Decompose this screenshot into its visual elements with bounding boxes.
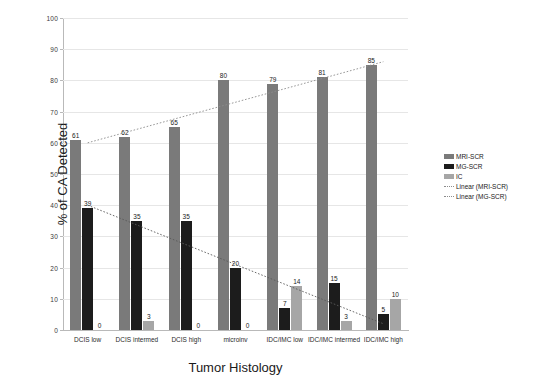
bar-value-label: 61: [72, 132, 79, 139]
bar-value-label: 79: [269, 76, 276, 83]
bar-value-label: 10: [392, 291, 399, 298]
bar-mg-scr[interactable]: 35: [181, 221, 192, 330]
bar-value-label: 5: [382, 306, 386, 313]
legend-item[interactable]: IC: [444, 172, 534, 181]
legend-label: Linear (MRI-SCR): [456, 183, 508, 190]
x-axis-tick-label: IDC/IMC intermed: [308, 336, 360, 343]
legend-dotted-line-icon: [444, 186, 454, 187]
y-axis-tick-label: 20: [50, 264, 58, 271]
legend-item[interactable]: Linear (MG-SCR): [444, 192, 534, 201]
bar-value-label: 81: [318, 69, 325, 76]
plot-frame: 0102030405060708090100 61390DCIS low6235…: [63, 18, 408, 330]
legend-item[interactable]: Linear (MRI-SCR): [444, 182, 534, 191]
bar-mg-scr[interactable]: 35: [131, 221, 142, 330]
bar-value-label: 0: [98, 322, 102, 329]
bar-value-label: 0: [246, 322, 250, 329]
bar-ic[interactable]: 3: [341, 321, 352, 330]
y-axis-tick-label: 80: [50, 77, 58, 84]
y-axis-title: % of CA Detected: [55, 123, 70, 226]
bar-value-label: 35: [183, 213, 190, 220]
bar-value-label: 20: [232, 260, 239, 267]
legend-label: MRI-SCR: [456, 153, 484, 160]
bar-group: 81153IDC/IMC intermed: [309, 18, 358, 330]
bars: 80200: [211, 18, 260, 330]
x-axis-tick-label: IDC/IMC low: [267, 336, 303, 343]
bars: 81153: [309, 18, 358, 330]
bar-value-label: 3: [344, 313, 348, 320]
bar-mri-scr[interactable]: 85: [366, 65, 377, 330]
bar-group: 61390DCIS low: [63, 18, 112, 330]
bar-mri-scr[interactable]: 79: [267, 84, 278, 330]
legend-label: Linear (MG-SCR): [456, 193, 507, 200]
bar-group: 62353DCIS intermed: [112, 18, 161, 330]
y-axis-tick-label: 70: [50, 108, 58, 115]
bar-ic[interactable]: 3: [143, 321, 154, 330]
y-axis-tick-label: 100: [47, 15, 58, 22]
bar-value-label: 7: [283, 300, 287, 307]
legend-label: IC: [456, 173, 463, 180]
bar-mg-scr[interactable]: 15: [329, 283, 340, 330]
bar-value-label: 0: [196, 322, 200, 329]
bar-mg-scr[interactable]: 5: [378, 314, 389, 330]
legend-swatch-icon: [444, 154, 454, 159]
bar-value-label: 62: [121, 129, 128, 136]
y-axis-tick-label: 0: [54, 327, 58, 334]
x-axis-tick-label: microinv: [223, 336, 247, 343]
legend-label: MG-SCR: [456, 163, 482, 170]
x-axis-tick-label: IDC/IMC high: [364, 336, 403, 343]
y-axis-tick-label: 10: [50, 295, 58, 302]
bar-value-label: 39: [84, 200, 91, 207]
bars: 79714: [260, 18, 309, 330]
bar-value-label: 80: [220, 72, 227, 79]
bar-mri-scr[interactable]: 81: [317, 77, 328, 330]
bar-mri-scr[interactable]: 65: [169, 127, 180, 330]
bar-mg-scr[interactable]: 20: [230, 268, 241, 330]
bar-mg-scr[interactable]: 7: [279, 308, 290, 330]
legend-item[interactable]: MRI-SCR: [444, 152, 534, 161]
bars: 61390: [63, 18, 112, 330]
y-axis-tick-label: 30: [50, 233, 58, 240]
bars: 85510: [359, 18, 408, 330]
legend-item[interactable]: MG-SCR: [444, 162, 534, 171]
bar-value-label: 85: [368, 57, 375, 64]
bar-mri-scr[interactable]: 62: [119, 137, 130, 330]
x-axis-tick-label: DCIS intermed: [116, 336, 159, 343]
bar-value-label: 14: [293, 278, 300, 285]
bar-mri-scr[interactable]: 80: [218, 80, 229, 330]
x-axis-title: Tumor Histology: [63, 360, 408, 375]
y-axis-tick-label: 90: [50, 46, 58, 53]
bar-value-label: 15: [330, 275, 337, 282]
bar-mri-scr[interactable]: 61: [70, 140, 81, 330]
bars: 65350: [162, 18, 211, 330]
legend-swatch-icon: [444, 164, 454, 169]
bar-value-label: 35: [133, 213, 140, 220]
bar-mg-scr[interactable]: 39: [82, 208, 93, 330]
bar-group: 65350DCIS high: [162, 18, 211, 330]
bar-value-label: 65: [171, 119, 178, 126]
chart-container: 0102030405060708090100 61390DCIS low6235…: [0, 0, 537, 380]
bar-groups: 61390DCIS low62353DCIS intermed65350DCIS…: [63, 18, 408, 330]
bars: 62353: [112, 18, 161, 330]
legend-dotted-line-icon: [444, 196, 454, 197]
x-axis-tick-label: DCIS high: [171, 336, 201, 343]
bar-ic[interactable]: 10: [390, 299, 401, 330]
y-axis-tick-mark: [60, 330, 63, 331]
bar-group: 85510IDC/IMC high: [359, 18, 408, 330]
bar-value-label: 3: [147, 313, 151, 320]
x-axis-tick-label: DCIS low: [74, 336, 101, 343]
bar-ic[interactable]: 14: [291, 286, 302, 330]
legend-swatch-icon: [444, 174, 454, 179]
bar-group: 80200microinv: [211, 18, 260, 330]
gridline: [63, 330, 408, 331]
bar-group: 79714IDC/IMC low: [260, 18, 309, 330]
chart-legend: MRI-SCRMG-SCRICLinear (MRI-SCR)Linear (M…: [444, 152, 534, 202]
